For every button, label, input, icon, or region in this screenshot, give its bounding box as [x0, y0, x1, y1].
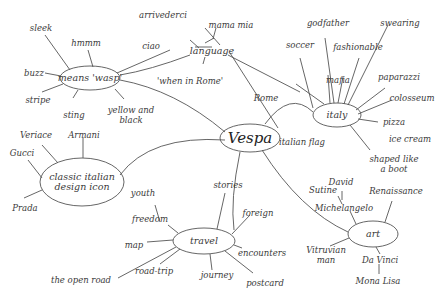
- leaf-colosseum: colosseum: [389, 93, 434, 103]
- leaf-italian-flag: italian flag: [279, 137, 325, 147]
- leaf-ciao: ciao: [142, 41, 160, 51]
- leaf-paparazzi: paparazzi: [378, 72, 420, 82]
- leaf-fashionable: fashionable: [333, 42, 383, 52]
- leaf-pizza: pizza: [383, 117, 405, 127]
- leaf-arrivederci: arrivederci: [139, 10, 187, 20]
- leaf-when-in-rome: 'when in Rome': [157, 76, 223, 86]
- leaf-buzz: buzz: [24, 68, 44, 78]
- leaf-veriace: Veriace: [20, 130, 52, 140]
- leaf-david: David: [329, 177, 354, 187]
- node-means-wasp[interactable]: means 'wasp': [58, 73, 122, 83]
- mind-map: Vespa means 'wasp' language italy classi…: [0, 0, 440, 299]
- leaf-gucci: Gucci: [10, 148, 35, 158]
- node-language[interactable]: language: [190, 46, 234, 56]
- leaf-swearing: swearing: [380, 18, 419, 28]
- leaf-godfather: godfather: [307, 18, 349, 28]
- node-design[interactable]: classic italian design icon: [49, 172, 115, 192]
- leaf-youth: youth: [131, 188, 155, 198]
- leaf-stories: stories: [213, 180, 242, 190]
- leaf-da-vinci: Da Vinci: [362, 255, 398, 265]
- center-node[interactable]: Vespa: [228, 133, 273, 143]
- leaf-postcard: postcard: [246, 278, 284, 288]
- leaf-yellow-and-black: yellow and black: [108, 105, 154, 125]
- leaf-sting: sting: [63, 110, 84, 120]
- leaf-mona-lisa: Mona Lisa: [356, 276, 401, 286]
- leaf-the-open-road: the open road: [51, 275, 111, 285]
- leaf-ice-cream: ice cream: [389, 134, 431, 144]
- leaf-prada: Prada: [12, 203, 37, 213]
- leaf-journey: journey: [201, 270, 234, 280]
- leaf-soccer: soccer: [286, 40, 314, 50]
- leaf-mama-mia: mama mia: [209, 20, 254, 30]
- leaf-map: map: [125, 240, 144, 250]
- leaf-rome: Rome: [254, 93, 279, 103]
- leaf-hmmm: hmmm: [71, 38, 101, 48]
- leaf-vitruvian-man: Vitruvian man: [306, 245, 346, 265]
- leaf-renaissance: Renaissance: [369, 186, 423, 196]
- node-art[interactable]: art: [366, 229, 380, 239]
- leaf-sleek: sleek: [30, 23, 52, 33]
- node-travel[interactable]: travel: [190, 236, 218, 246]
- leaf-encounters: encounters: [238, 248, 286, 258]
- leaf-mafia: mafia: [326, 75, 350, 85]
- leaf-road-trip: road-trip: [135, 266, 173, 276]
- leaf-freedom: freedom: [132, 214, 168, 224]
- leaf-foreign: foreign: [243, 208, 274, 218]
- node-italy[interactable]: italy: [327, 110, 348, 120]
- leaf-armani: Armani: [68, 130, 100, 140]
- leaf-shaped-like-a-boot: shaped like a boot: [369, 154, 418, 174]
- leaf-michelangelo: Michelangelo: [315, 203, 373, 213]
- leaf-stripe: stripe: [25, 95, 50, 105]
